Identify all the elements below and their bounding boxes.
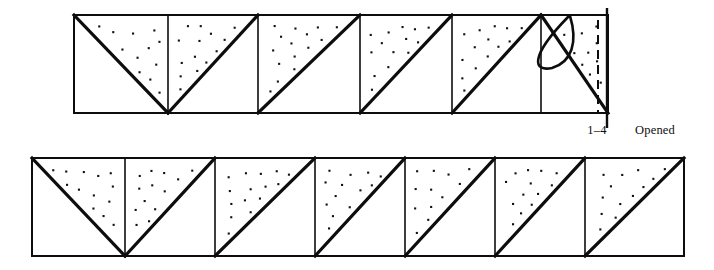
stipple-dot [92,208,94,210]
stipple-dot [52,169,54,171]
stipple-dot [551,184,553,186]
stipple-dot [427,219,429,221]
stipple-dot [198,40,200,42]
stipple-dot [652,178,654,180]
stipple-dot [177,178,179,180]
stipple-dot [288,174,290,176]
stipple-dot [479,29,481,31]
stipple-dot [494,25,496,27]
stipple-dot [405,38,407,40]
stipple-dot [556,172,558,174]
stipple-dot [112,186,114,188]
stipple-dot [527,169,529,171]
stipple-dot [294,28,296,30]
stipple-dot [293,68,295,70]
stipple-dot [461,59,463,61]
stipple-dot [328,170,330,172]
stipple-dot [509,40,511,42]
stipple-dot [619,203,621,205]
stipple-dot [487,55,489,57]
stipple-dot [121,49,123,51]
stipple-dot [587,52,589,54]
stipple-dot [180,75,182,77]
stipple-dot [259,198,261,200]
stipple-dot [530,182,532,184]
stipple-dot [164,190,166,192]
stipple-dot [274,25,276,27]
stipple-dot [487,38,489,40]
stipple-dot [277,81,279,83]
stipple-dot [441,196,443,198]
stipple-dot [332,215,334,217]
stipple-dot [359,189,361,191]
stipple-dot [632,195,634,197]
stipple-dot [407,52,409,54]
stipple-dot [132,33,134,35]
stipple-dot [520,212,522,214]
stipple-dot [381,42,383,44]
stipple-dot [601,213,603,215]
stipple-dot [250,188,252,190]
stipple-dot [181,62,183,64]
stipple-dot [321,39,323,41]
stipple-dot [522,194,524,196]
stipple-dot [505,181,507,183]
stipple-dot [537,193,539,195]
stipple-dot [512,223,514,225]
stipple-dot [610,185,612,187]
stipple-dot [277,183,279,185]
stipple-dot [414,28,416,30]
stipple-dot [108,201,110,203]
stipple-dot [153,29,155,31]
stipple-dot [463,33,465,35]
stipple-dot [341,184,343,186]
stipple-dot [276,170,278,172]
stipple-dot [155,64,157,66]
stipple-dot [290,42,292,44]
stipple-dot [581,32,583,34]
stipple-dot [230,203,232,205]
stipple-dot [187,25,189,27]
stipple-dot [581,64,583,66]
stipple-dot [326,204,328,206]
stipple-dot [328,227,330,229]
stipple-dot [138,188,140,190]
stipple-dot [230,216,232,218]
stipple-dot [521,27,523,29]
stipple-dot [135,209,137,211]
stipple-dot [563,34,565,36]
stipple-dot [93,194,95,196]
stipple-dot [210,33,212,35]
stipple-dot [139,71,141,73]
stipple-dot [370,34,372,36]
stipple-dot [234,27,236,29]
stipple-dot [83,171,85,173]
stipple-dot [229,190,231,192]
stipple-dot [475,67,477,69]
stipple-dot [137,57,139,59]
stipple-dot [110,172,112,174]
stipple-dot [430,189,432,191]
stipple-dot [149,79,151,81]
stipple-dot [392,51,394,53]
stipple-dot [272,49,274,51]
stipple-dot [371,184,373,186]
stipple-dot [615,217,617,219]
stipple-dot [179,88,181,90]
stipple-dot [637,169,639,171]
stipple-dot [136,224,138,226]
stipple-dot [417,41,419,43]
stipple-dot [294,56,296,58]
stipple-dot [158,41,160,43]
stipple-dot [269,90,271,92]
stipple-dot [370,51,372,53]
stipple-dot [415,188,417,190]
stipple-dot [194,56,196,58]
stipple-dot [163,172,165,174]
stipple-dot [599,228,601,230]
stipple-dot [245,172,247,174]
stipple-dot [573,52,575,54]
stipple-dot [265,186,267,188]
stipple-dot [497,46,499,48]
stipple-dot [430,206,432,208]
